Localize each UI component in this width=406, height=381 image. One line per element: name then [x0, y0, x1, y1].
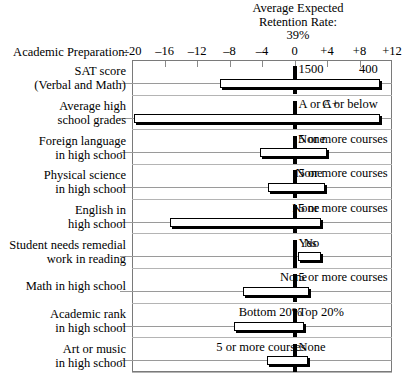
bar-low-label: 400: [359, 63, 378, 76]
bar-high-label: 5 or more courses: [299, 167, 388, 180]
range-bar: [170, 218, 321, 227]
row-category-label: Academic rankin high school: [0, 307, 126, 335]
bar-high-label: Yes: [299, 237, 317, 250]
x-tick-mark: [197, 61, 198, 67]
x-tick-plus4: +4: [312, 44, 342, 59]
bar-high-label: A or A+: [299, 98, 339, 111]
row-separator: [132, 372, 392, 373]
bar-high-label: 5 or more courses: [299, 271, 388, 284]
header-line-3: 39%: [218, 29, 378, 43]
row-separator: [132, 129, 392, 130]
zero-reference-line: [293, 240, 297, 268]
bar-high-label: 5 or more courses: [299, 133, 388, 146]
range-bar: [234, 322, 304, 331]
range-bar: [243, 287, 310, 296]
row-category-label-line: Average high: [0, 99, 126, 113]
x-tick-minus16: –16: [150, 44, 180, 59]
bar-high-label: 5 or more courses: [299, 202, 388, 215]
row-separator: [132, 303, 392, 304]
row-category-label-line: English in: [0, 203, 126, 217]
row-category-label-line: in high school: [0, 182, 126, 196]
row-category-label: Student needs remedialwork in reading: [0, 238, 126, 266]
row-category-label-line: Student needs remedial: [0, 238, 126, 252]
row-category-label-line: Foreign language: [0, 134, 126, 148]
row-category-label-line: in high school: [0, 321, 126, 335]
row-baseline: [132, 256, 392, 257]
row-separator: [132, 337, 392, 338]
x-tick-plus12: +12: [377, 44, 406, 59]
row-baseline: [132, 187, 392, 188]
row-category-label: Art or musicin high school: [0, 342, 126, 370]
x-tick-mark: [165, 61, 166, 67]
row-category-label-line: (Verbal and Math): [0, 78, 126, 92]
x-axis-caption: Academic Preparation:: [4, 45, 128, 60]
chart-header: Average Expected Retention Rate: 39%: [218, 2, 378, 43]
range-bar: [134, 114, 380, 123]
row-category-label-line: work in reading: [0, 252, 126, 266]
row-category-label: Math in high school: [0, 279, 126, 293]
row-category-label-line: SAT score: [0, 64, 126, 78]
range-bar: [268, 183, 325, 192]
range-bar: [220, 79, 380, 88]
bar-low-label: Bottom 20%: [239, 306, 303, 319]
x-tick-0: 0: [280, 44, 310, 59]
x-tick-minus20: –20: [117, 44, 147, 59]
bar-high-label: Top 20%: [299, 306, 344, 319]
range-bar: [267, 356, 308, 365]
x-tick-mark: [262, 61, 263, 67]
x-tick-mark: [327, 61, 328, 67]
row-category-label: Physical sciencein high school: [0, 168, 126, 196]
row-baseline: [132, 360, 392, 361]
row-category-label-line: in high school: [0, 356, 126, 370]
row-category-label-line: in high school: [0, 148, 126, 162]
range-bar: [298, 252, 322, 261]
x-tick-minus12: –12: [182, 44, 212, 59]
row-category-label: Average highschool grades: [0, 99, 126, 127]
row-category-label-line: Academic rank: [0, 307, 126, 321]
x-tick-minus8: –8: [215, 44, 245, 59]
row-separator: [132, 164, 392, 165]
row-category-label-line: high school: [0, 217, 126, 231]
bar-high-label: 1500: [299, 63, 324, 76]
row-separator: [132, 233, 392, 234]
row-category-label: SAT score(Verbal and Math): [0, 64, 126, 92]
row-separator: [132, 95, 392, 96]
row-separator: [132, 199, 392, 200]
x-tick-plus8: +8: [345, 44, 375, 59]
row-category-label-line: school grades: [0, 113, 126, 127]
row-category-label: Foreign languagein high school: [0, 134, 126, 162]
row-category-label-line: Art or music: [0, 342, 126, 356]
row-category-label-line: Physical science: [0, 168, 126, 182]
bar-high-label: None: [299, 341, 326, 354]
bar-low-label: 5 or more courses: [216, 341, 305, 354]
row-category-label: English inhigh school: [0, 203, 126, 231]
x-tick-minus4: –4: [247, 44, 277, 59]
header-line-2: Retention Rate:: [218, 16, 378, 30]
range-bar: [260, 148, 327, 157]
row-category-label-line: Math in high school: [0, 279, 126, 293]
x-tick-mark: [230, 61, 231, 67]
row-separator: [132, 268, 392, 269]
header-line-1: Average Expected: [218, 2, 378, 16]
